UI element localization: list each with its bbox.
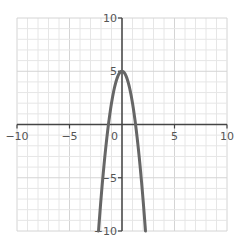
- plot-svg: −10−5510105−5−100: [0, 0, 241, 241]
- origin-label: 0: [111, 130, 118, 143]
- y-tick-label: 10: [103, 12, 117, 25]
- x-tick-label: −10: [5, 130, 28, 143]
- y-tick-label: 5: [110, 65, 117, 78]
- x-tick-label: 5: [171, 130, 178, 143]
- x-tick-label: 10: [220, 130, 234, 143]
- x-tick-label: −5: [61, 130, 77, 143]
- function-graph: −10−5510105−5−100: [0, 0, 241, 241]
